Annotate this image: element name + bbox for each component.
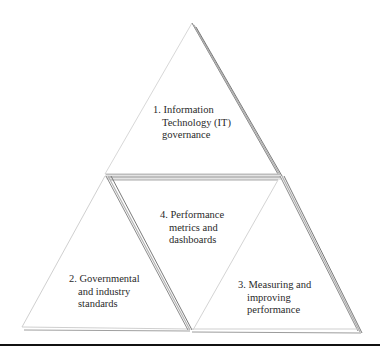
- triangle-3-line-2: improving: [238, 292, 311, 305]
- triangle-3-line-3: performance: [238, 304, 311, 317]
- triangle-1-shape: [105, 23, 282, 176]
- triangle-3-line-1: 3. Measuring and: [238, 279, 311, 292]
- triangle-2-label: 2. Governmental and industry standards: [69, 273, 140, 311]
- triangle-1-line-2: Technology (IT): [153, 117, 231, 130]
- triangle-2-line-1: 2. Governmental: [69, 273, 140, 286]
- triangle-3-label: 3. Measuring and improving performance: [238, 279, 311, 317]
- triangle-1-line-3: governance: [153, 129, 231, 142]
- triangle-shapes: [0, 0, 380, 355]
- triangle-4-line-1: 4. Performance: [160, 209, 224, 222]
- triangle-4-label: 4. Performance metrics and dashboards: [160, 209, 224, 247]
- triangle-4-line-2: metrics and: [160, 222, 224, 235]
- bottom-rule: [0, 344, 380, 346]
- triangle-1-label: 1. Information Technology (IT) governanc…: [153, 104, 231, 142]
- triangle-4-line-3: dashboards: [160, 234, 224, 247]
- triangle-2-line-2: and industry: [69, 286, 140, 299]
- center-bar: [105, 174, 281, 180]
- triangle-1-line-1: 1. Information: [153, 104, 231, 117]
- diagram-canvas: 1. Information Technology (IT) governanc…: [0, 0, 380, 355]
- triangle-2-line-3: standards: [69, 298, 140, 311]
